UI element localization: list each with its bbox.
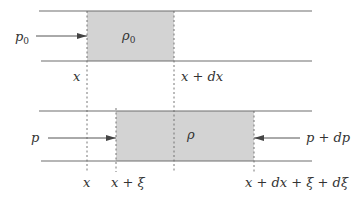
top-pressure-label: p0	[15, 29, 29, 46]
fluid-element-diagram: p0 ρ0 x x + dx p p + dp ρ x x + ξ x + dx…	[0, 0, 360, 198]
bottom-pos-x-label: x	[83, 175, 91, 190]
bottom-left-pressure-label: p	[31, 130, 40, 145]
bottom-panel: p p + dp ρ x x + ξ x + dx + ξ + dξ	[31, 111, 351, 190]
bottom-pos-right-label: x + dx + ξ + dξ	[245, 175, 349, 190]
bottom-pos-x-xi-label: x + ξ	[111, 175, 145, 190]
top-pos-x-label: x	[73, 69, 81, 84]
top-pos-x-dx-label: x + dx	[181, 69, 224, 84]
bottom-density-label: ρ	[186, 127, 195, 142]
top-panel: p0 ρ0 x x + dx	[15, 11, 312, 84]
bottom-fluid-element	[116, 111, 254, 161]
bottom-right-pressure-label: p + dp	[306, 130, 351, 145]
